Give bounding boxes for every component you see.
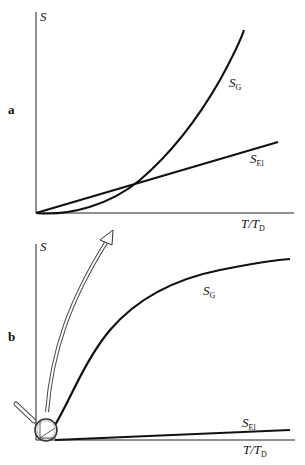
panel-b-label: b	[8, 329, 15, 345]
panel-b-sg-curve	[55, 259, 290, 425]
panel-b-sel-label: SEl	[242, 415, 256, 432]
panel-a-y-axis-label: S	[40, 9, 47, 25]
panel-a-sg-curve	[36, 30, 244, 213]
panel-b-x-axis-label-main: T/T	[243, 442, 261, 457]
panel-a-sg-label: SG	[229, 75, 241, 92]
panel-b-sel-label-sub: El	[249, 423, 256, 432]
panel-a-sel-line	[36, 142, 278, 213]
panel-a-x-axis-label: T/TD	[241, 216, 265, 233]
panel-a-sg-label-sub: G	[236, 83, 242, 92]
panel-b-x-axis-label: T/TD	[243, 442, 267, 459]
panel-b-y-axis-label: S	[40, 239, 47, 255]
panel-b-axes	[36, 244, 295, 440]
panel-a-label: a	[8, 102, 15, 118]
panel-a-sel-label: SEl	[250, 151, 264, 168]
zoom-arrow-icon	[47, 230, 113, 412]
panel-b-x-axis-label-sub: D	[261, 450, 267, 459]
panel-a-x-axis-label-sub: D	[259, 224, 265, 233]
panel-b-sg-label: SG	[203, 283, 215, 300]
panel-a-axes	[36, 12, 294, 213]
panel-a-sel-label-sub: El	[257, 159, 264, 168]
panel-b-sg-label-sub: G	[210, 291, 216, 300]
panel-a-x-axis-label-main: T/T	[241, 216, 259, 231]
